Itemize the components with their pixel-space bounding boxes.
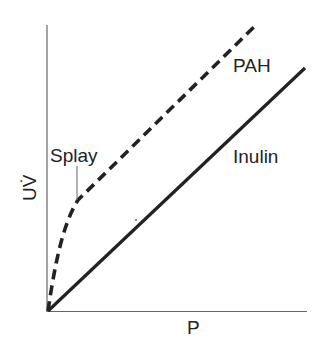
pah-line — [48, 24, 257, 311]
chart: Splay PAH Inulin P UV̇ — [0, 0, 321, 352]
speck-mark — [135, 219, 137, 221]
splay-label: Splay — [50, 145, 98, 166]
y-axis-label: UV̇ — [19, 174, 40, 201]
x-axis-label: P — [187, 317, 200, 338]
inulin-label: Inulin — [233, 146, 278, 167]
pah-label: PAH — [233, 55, 271, 76]
